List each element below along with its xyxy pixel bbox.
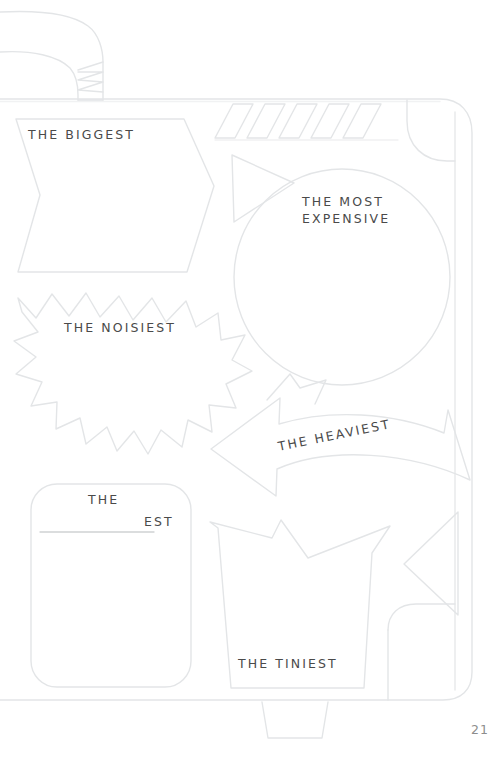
triangle-left-decor [404, 512, 458, 615]
frame-heaviest [211, 398, 470, 496]
prompt-label-tiniest: THE TINIEST [238, 655, 338, 672]
suitcase-foot [262, 702, 328, 738]
prompt-label-noisiest: THE NOISIEST [64, 319, 176, 336]
prompt-label-most-expensive-line1: THE MOST [302, 194, 384, 209]
prompt-label-most-expensive-line2: EXPENSIVE [302, 211, 390, 226]
page-number: 21 [471, 722, 489, 737]
suitcase-illustration [0, 0, 503, 764]
triangle-right-decor [232, 155, 294, 222]
prompt-label-biggest: THE BIGGEST [28, 126, 135, 143]
diagonal-stripes [215, 104, 398, 140]
prompt-label-blank-suffix: EST [144, 513, 174, 530]
corner-protector-top-right [407, 100, 455, 161]
prompt-label-most-expensive: THE MOSTEXPENSIVE [302, 193, 390, 227]
corner-protector-bottom-right [388, 604, 455, 700]
worksheet-page: THE BIGGEST THE MOSTEXPENSIVE THE NOISIE… [0, 0, 503, 764]
suitcase-handle-icon [0, 12, 103, 100]
frame-noisiest [14, 293, 252, 454]
suitcase-body [0, 99, 472, 700]
prompt-label-blank-prefix: THE [88, 491, 119, 508]
arrow-notch-decor [267, 374, 326, 404]
